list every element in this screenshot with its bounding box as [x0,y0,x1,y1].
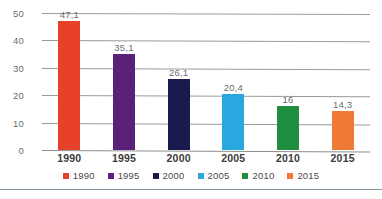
legend-swatch-icon [153,173,159,179]
bar-value-label: 20,4 [224,82,243,93]
bar[interactable] [222,94,244,150]
bar-group: 16 [261,13,316,150]
bar-group: 35,1 [97,13,152,150]
bar-group: 47,1 [42,13,97,150]
legend-label: 2005 [208,170,230,181]
bar-value-label: 47,1 [60,9,79,20]
bars-layer: 47,135,126,120,41614,3 [42,13,370,150]
legend-label: 1990 [73,170,95,181]
x-tick-label: 1990 [42,152,97,164]
x-tick-label: 1995 [97,152,152,164]
y-tick-label: 40 [0,35,24,46]
bar[interactable] [332,111,354,150]
bar-value-label: 35,1 [114,42,133,53]
x-tick-label: 2015 [315,152,370,164]
legend-item[interactable]: 1995 [108,170,140,181]
legend-item[interactable]: 2005 [198,170,230,181]
legend-item[interactable]: 2000 [153,170,185,181]
legend-swatch-icon [198,173,204,179]
legend-label: 2000 [163,170,185,181]
bar-chart-figure: 01020304050 47,135,126,120,41614,3 19901… [0,0,382,199]
legend-swatch-icon [63,173,69,179]
bar-value-label: 26,1 [169,67,188,78]
legend-item[interactable]: 2015 [287,170,319,181]
legend-swatch-icon [108,173,114,179]
bar-group: 20,4 [206,13,261,150]
legend-label: 2010 [252,170,274,181]
bar[interactable] [58,21,80,150]
legend-label: 2015 [297,170,319,181]
bar[interactable] [168,79,190,151]
y-tick-label: 0 [0,145,24,156]
bar-value-label: 16 [283,94,294,105]
x-tick-label: 2000 [151,152,206,164]
bar[interactable] [277,106,299,150]
legend-label: 1995 [118,170,140,181]
chart-legend: 199019952000200520102015 [0,170,382,181]
legend-item[interactable]: 1990 [63,170,95,181]
x-tick-label: 2005 [206,152,261,164]
x-axis-labels: 199019952000200520102015 [42,152,370,168]
legend-swatch-icon [287,173,293,179]
bar-group: 14,3 [315,13,370,150]
y-tick-label: 20 [0,90,24,101]
bar[interactable] [113,54,135,150]
bottom-divider [0,189,382,190]
y-tick-label: 50 [0,8,24,19]
bar-value-label: 14,3 [333,99,352,110]
legend-item[interactable]: 2010 [242,170,274,181]
legend-swatch-icon [242,173,248,179]
y-tick-label: 30 [0,62,24,73]
bar-group: 26,1 [151,13,206,150]
x-tick-label: 2010 [261,152,316,164]
plot-area: 01020304050 47,135,126,120,41614,3 [42,13,370,150]
y-tick-label: 10 [0,117,24,128]
